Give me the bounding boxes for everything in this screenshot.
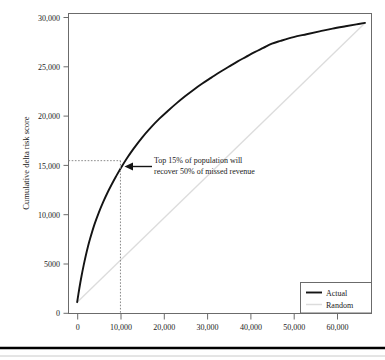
x-axis-ticks [78,314,338,320]
x-axis-tick-labels: 0 10,000 20,000 30,000 40,000 50,000 60,… [76,323,349,332]
y-tick-label: 15,000 [38,162,60,171]
x-tick-label: 40,000 [240,323,262,332]
y-tick-label: 25,000 [38,63,60,72]
y-tick-label: 5000 [44,260,60,269]
x-tick-label: 10,000 [110,323,132,332]
x-tick-label: 60,000 [327,323,349,332]
figure-container: 30,000 25,000 20,000 15,000 10,000 5000 … [0,0,385,360]
y-tick-label: 20,000 [38,112,60,121]
legend-label-actual: Actual [326,289,348,298]
x-tick-label: 20,000 [153,323,175,332]
x-tick-label: 50,000 [283,323,305,332]
cumulative-gains-chart: 30,000 25,000 20,000 15,000 10,000 5000 … [0,0,385,360]
annotation-line-1: Top 15% of population will [154,156,243,165]
y-axis-ticks [64,18,69,314]
annotation-line-2: recover 50% of missed revenue [154,167,255,176]
y-axis-title: Cumulative delta risk score [21,116,31,209]
y-tick-label: 0 [56,309,60,318]
legend-label-random: Random [326,301,354,310]
y-tick-label: 30,000 [38,14,60,23]
chart-legend[interactable]: Actual Random [301,283,372,314]
y-tick-label: 10,000 [38,211,60,220]
y-axis-tick-labels: 30,000 25,000 20,000 15,000 10,000 5000 … [38,14,60,319]
x-tick-label: 30,000 [197,323,219,332]
annotation-arrow-icon [125,163,153,171]
annotation-callout: Top 15% of population will recover 50% o… [154,156,255,176]
x-tick-label: 0 [76,323,80,332]
